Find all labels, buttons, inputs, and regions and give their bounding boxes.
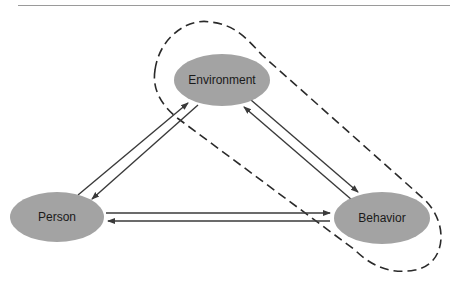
arrow-environment-to-behavior	[251, 100, 358, 192]
triadic-diagram: Environment Person Behavior	[0, 0, 457, 288]
arrow-person-to-environment	[78, 103, 188, 195]
node-environment: Environment	[174, 54, 270, 106]
node-behavior: Behavior	[334, 192, 430, 244]
arrow-environment-to-person	[92, 105, 198, 199]
node-environment-label: Environment	[188, 73, 256, 87]
node-person: Person	[10, 192, 104, 242]
node-behavior-label: Behavior	[358, 211, 405, 225]
node-person-label: Person	[38, 210, 76, 224]
